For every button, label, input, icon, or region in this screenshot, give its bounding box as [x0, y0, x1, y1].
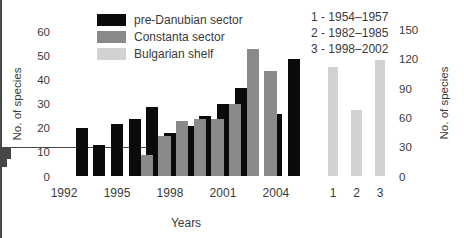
left-y-tick-label-0: 0 [26, 170, 50, 184]
right-x-tick-label-1: 1 [323, 186, 343, 200]
right-y-axis-title: No. of species [437, 53, 451, 153]
bar-constanta-2003 [264, 71, 276, 177]
left-y-axis-line [0, 0, 2, 147]
left-x-axis-title: Years [156, 216, 216, 230]
left-x-tick-label-1995: 1995 [101, 186, 133, 200]
left-x-tick-label-1998: 1998 [154, 186, 186, 200]
bar-pre-danubian-1996 [129, 119, 141, 177]
bar-pre-danubian-1995 [111, 124, 123, 177]
bar-constanta-2000 [211, 119, 223, 177]
right-x-tick-label-3: 3 [370, 186, 390, 200]
bar-constanta-1996 [141, 155, 153, 177]
right-y-tick-label-90: 90 [399, 82, 429, 96]
bar-constanta-1998 [176, 121, 188, 176]
left-y-tick-label-50: 50 [26, 49, 50, 63]
left-x-tick-label-1992: 1992 [48, 186, 80, 200]
left-y-axis-title: No. of species [10, 54, 24, 154]
bar-period-3 [375, 60, 386, 176]
period-legend-line-1: 1 - 1954–1957 [311, 10, 388, 24]
right-y-tick-label-0: 0 [399, 170, 429, 184]
bar-pre-danubian-2005 [288, 59, 300, 177]
right-y-tick-label-60: 60 [399, 111, 429, 125]
period-legend-line-3: 3 - 1998–2002 [311, 42, 388, 56]
legend-swatch-2 [97, 31, 126, 43]
right-x-tick-label-2: 2 [347, 186, 367, 200]
left-y-tick-label-30: 30 [26, 97, 50, 111]
left-x-tick-2004 [0, 233, 2, 238]
legend-label-2: Constanta sector [134, 30, 225, 44]
left-y-tick-label-20: 20 [26, 121, 50, 135]
legend-label-3: Bulgarian shelf [134, 47, 213, 61]
period-legend-line-2: 2 - 1982–1985 [311, 26, 388, 40]
left-y-tick-label-60: 60 [26, 25, 50, 39]
left-y-tick-label-40: 40 [26, 73, 50, 87]
left-x-tick-label-2004: 2004 [260, 186, 292, 200]
legend-swatch-1 [97, 14, 126, 26]
legend-swatch-3 [97, 48, 126, 60]
bar-constanta-1997 [158, 136, 170, 177]
right-y-tick-label-150: 150 [399, 23, 429, 37]
bar-period-1 [328, 67, 339, 176]
right-y-tick-label-120: 120 [399, 52, 429, 66]
bar-constanta-2001 [229, 104, 241, 176]
bar-constanta-1999 [194, 119, 206, 177]
bar-pre-danubian-1994 [93, 145, 105, 176]
right-y-tick-label-30: 30 [399, 140, 429, 154]
bar-constanta-2002 [247, 49, 259, 176]
bar-period-2 [351, 110, 362, 176]
bar-pre-danubian-1993 [76, 128, 88, 176]
left-x-tick-label-2001: 2001 [207, 186, 239, 200]
legend-label-1: pre-Danubian sector [134, 13, 243, 27]
figure-canvas: No. of species Years No. of species 0102… [0, 0, 464, 238]
left-y-tick-label-10: 10 [26, 145, 50, 159]
